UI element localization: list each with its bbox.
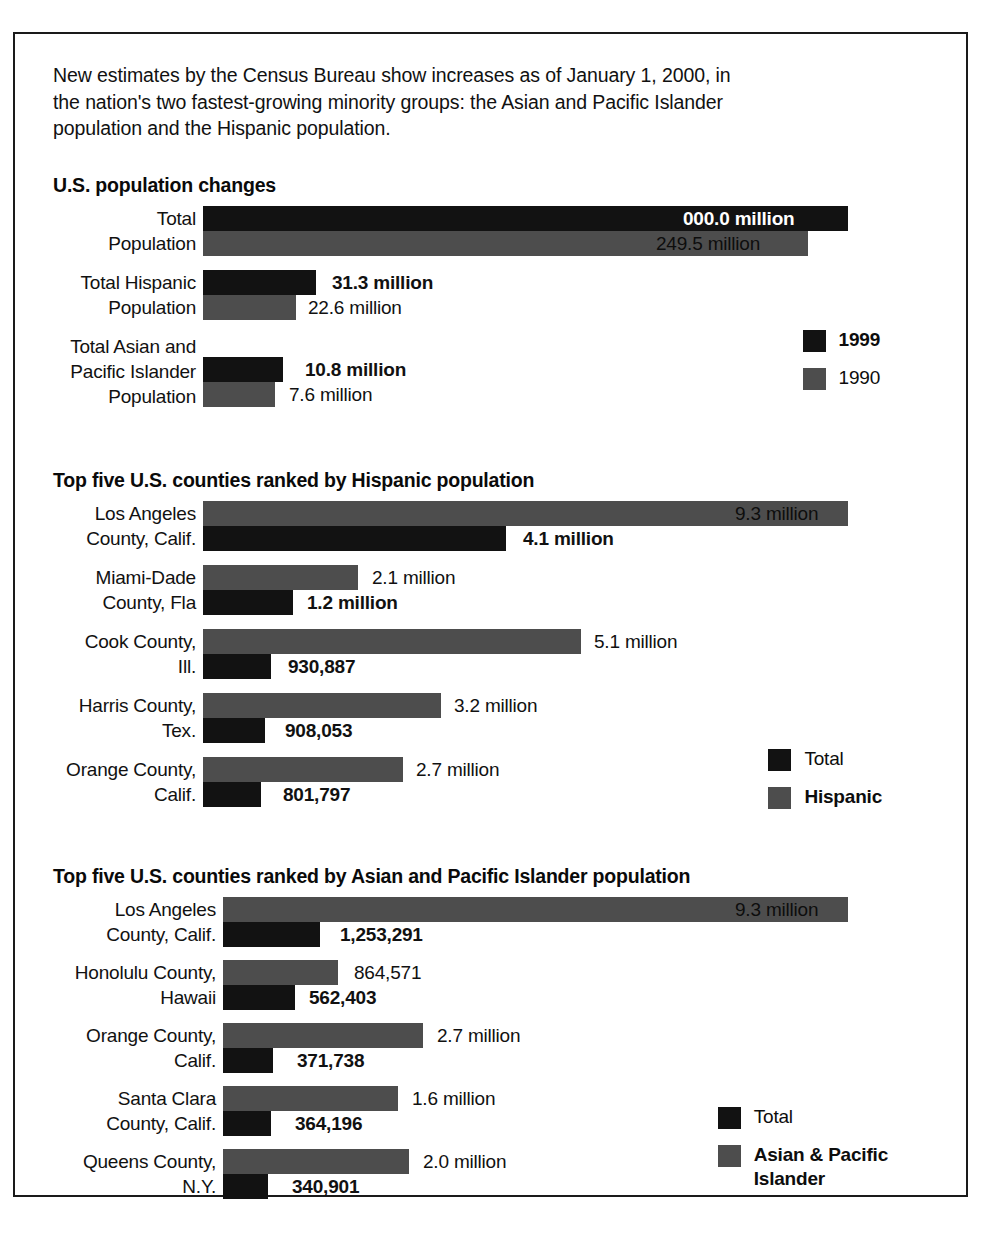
bar-hispanic bbox=[203, 654, 271, 679]
section-title: Top five U.S. counties ranked by Hispani… bbox=[53, 469, 940, 492]
bar-row: 1.2 million bbox=[203, 590, 940, 615]
bar-api bbox=[223, 1111, 271, 1136]
bar-total bbox=[223, 960, 338, 985]
bar-row: 908,053 bbox=[203, 718, 940, 743]
bar-value-hispanic: 908,053 bbox=[265, 718, 352, 743]
bar-total bbox=[203, 565, 358, 590]
bar-1999 bbox=[203, 357, 283, 382]
bar-value-1990: 249.5 million bbox=[656, 231, 760, 256]
legend-swatch-total bbox=[718, 1107, 741, 1129]
legend-item: 1999 bbox=[803, 328, 880, 352]
chart-group: Los Angeles County, Calif. 9.3 million 4… bbox=[53, 501, 940, 551]
bar-value-1999: 10.8 million bbox=[283, 357, 406, 382]
bar-api bbox=[223, 922, 320, 947]
chart-group: Miami-Dade County, Fla 2.1 million 1.2 m… bbox=[53, 565, 940, 615]
bar-value-api: 364,196 bbox=[271, 1111, 362, 1136]
bar-value-hispanic: 1.2 million bbox=[293, 590, 398, 615]
chart-group: Total Population 000.0 million 249.5 mil… bbox=[53, 206, 940, 256]
category-label: Honolulu County, Hawaii bbox=[53, 960, 223, 1010]
bar-row: 22.6 million bbox=[203, 295, 940, 320]
bar-value-total: 2.1 million bbox=[358, 565, 455, 590]
chart-group: Total Hispanic Population 31.3 million 2… bbox=[53, 270, 940, 320]
bar-pair: 2.1 million 1.2 million bbox=[203, 565, 940, 615]
legend-label-1990: 1990 bbox=[839, 366, 880, 390]
chart-group: Orange County, Calif. 2.7 million 371,73… bbox=[53, 1023, 940, 1073]
bar-pair: 000.0 million 249.5 million bbox=[203, 206, 940, 256]
bar-pair: 9.3 million 4.1 million bbox=[203, 501, 940, 551]
bar-value-total: 2.7 million bbox=[423, 1023, 520, 1048]
bar-row: 5.1 million bbox=[203, 629, 940, 654]
legend-label-1999: 1999 bbox=[839, 328, 880, 352]
legend-item: 1990 bbox=[803, 366, 880, 390]
bar-api bbox=[223, 1174, 268, 1199]
category-label: Harris County, Tex. bbox=[53, 693, 203, 743]
bar-value-api: 340,901 bbox=[268, 1174, 359, 1199]
category-label: Total Asian and Pacific Islander Populat… bbox=[53, 334, 203, 409]
bar-row: 864,571 bbox=[223, 960, 940, 985]
legend-label-hispanic: Hispanic bbox=[804, 785, 882, 809]
bar-pair: 3.2 million 908,053 bbox=[203, 693, 940, 743]
section-title: U.S. population changes bbox=[53, 174, 940, 197]
bar-value-1999: 31.3 million bbox=[316, 270, 433, 295]
intro-paragraph: New estimates by the Census Bureau show … bbox=[53, 62, 753, 142]
bar-hispanic bbox=[203, 782, 261, 807]
bar-pair: 5.1 million 930,887 bbox=[203, 629, 940, 679]
bar-row: 9.3 million bbox=[203, 501, 940, 526]
chart-asian-pacific-counties: Los Angeles County, Calif. 9.3 million 1… bbox=[53, 897, 940, 1199]
bar-row: 930,887 bbox=[203, 654, 940, 679]
legend-item: Total bbox=[718, 1105, 888, 1129]
legend-swatch-1999 bbox=[803, 330, 826, 352]
bar-value-total: 9.3 million bbox=[735, 501, 818, 526]
category-label: Total Population bbox=[53, 206, 203, 256]
chart-group: Honolulu County, Hawaii 864,571 562,403 bbox=[53, 960, 940, 1010]
bar-value-api: 562,403 bbox=[295, 985, 376, 1010]
bar-hispanic bbox=[203, 590, 293, 615]
bar-total bbox=[203, 693, 441, 718]
bar-pair: 2.7 million 371,738 bbox=[223, 1023, 940, 1073]
bar-row: 9.3 million bbox=[223, 897, 940, 922]
bar-api bbox=[223, 985, 295, 1010]
bar-total bbox=[203, 629, 581, 654]
bar-value-1990: 7.6 million bbox=[275, 382, 372, 407]
category-label: Total Hispanic Population bbox=[53, 270, 203, 320]
legend-swatch-api bbox=[718, 1145, 741, 1167]
chart-group: Harris County, Tex. 3.2 million 908,053 bbox=[53, 693, 940, 743]
bar-row: 4.1 million bbox=[203, 526, 940, 551]
bar-value-total: 2.7 million bbox=[403, 757, 499, 782]
category-label: Orange County, Calif. bbox=[53, 757, 203, 807]
legend-label-api: Asian & Pacific Islander bbox=[754, 1143, 888, 1191]
bar-1999 bbox=[203, 270, 316, 295]
legend-label-total: Total bbox=[754, 1105, 793, 1129]
bar-row: 371,738 bbox=[223, 1048, 940, 1073]
bar-value-total: 9.3 million bbox=[735, 897, 818, 922]
legend-item: Total bbox=[768, 747, 882, 771]
bar-row: 2.1 million bbox=[203, 565, 940, 590]
bar-row: 000.0 million bbox=[203, 206, 940, 231]
bar-value-total: 1.6 million bbox=[398, 1086, 495, 1111]
bar-api bbox=[223, 1048, 273, 1073]
legend-years: 1999 1990 bbox=[803, 328, 880, 404]
legend-swatch-hispanic bbox=[768, 787, 791, 809]
chart-hispanic-counties: Los Angeles County, Calif. 9.3 million 4… bbox=[53, 501, 940, 807]
bar-1990 bbox=[203, 382, 275, 407]
infographic-frame: New estimates by the Census Bureau show … bbox=[13, 32, 968, 1197]
bar-value-1990: 22.6 million bbox=[296, 295, 402, 320]
category-label: Orange County, Calif. bbox=[53, 1023, 223, 1073]
legend-item: Hispanic bbox=[768, 785, 882, 809]
bar-hispanic bbox=[203, 526, 506, 551]
legend-asian-pacific: Total Asian & Pacific Islander bbox=[718, 1105, 888, 1205]
bar-row: 2.7 million bbox=[223, 1023, 940, 1048]
category-label: Queens County, N.Y. bbox=[53, 1149, 223, 1199]
category-label: Los Angeles County, Calif. bbox=[53, 897, 223, 947]
bar-1990 bbox=[203, 295, 296, 320]
bar-total bbox=[223, 1149, 409, 1174]
bar-total bbox=[203, 757, 403, 782]
bar-row: 3.2 million bbox=[203, 693, 940, 718]
legend-label-total: Total bbox=[804, 747, 843, 771]
bar-total bbox=[223, 1086, 398, 1111]
bar-row: 249.5 million bbox=[203, 231, 940, 256]
bar-value-api: 371,738 bbox=[273, 1048, 364, 1073]
category-label: Santa Clara County, Calif. bbox=[53, 1086, 223, 1136]
bar-value-total: 2.0 million bbox=[409, 1149, 506, 1174]
bar-value-total: 5.1 million bbox=[581, 629, 677, 654]
